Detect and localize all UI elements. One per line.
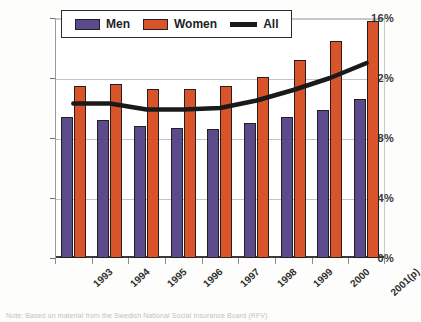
bar-men [317, 110, 329, 259]
men-swatch-icon [75, 19, 100, 30]
bar-men [171, 128, 183, 259]
bar-women [74, 86, 86, 259]
x-tick-label: 1993 [91, 266, 115, 289]
bar-men [61, 117, 73, 258]
bar-group [275, 18, 312, 258]
legend-item-all: All [230, 17, 278, 31]
legend-label-women: Women [174, 17, 217, 31]
bar-group [348, 18, 385, 258]
legend-label-all: All [263, 17, 278, 31]
bar-men [244, 123, 256, 258]
x-tick-label: 2000 [348, 266, 372, 289]
x-tick-label: 1995 [165, 266, 189, 289]
x-axis-labels: 199319941995199619971998199920002001(p) [55, 264, 385, 310]
bar-men [97, 120, 109, 258]
chart-legend: Men Women All [61, 10, 292, 38]
bar-women [257, 77, 269, 259]
legend-label-men: Men [106, 17, 130, 31]
bar-group [92, 18, 129, 258]
bar-men [281, 117, 293, 258]
all-line-icon [230, 22, 257, 27]
bar-women [147, 89, 159, 259]
bar-group [238, 18, 275, 258]
bar-group [202, 18, 239, 258]
legend-item-men: Men [75, 17, 130, 31]
bar-women [294, 60, 306, 258]
bar-group [312, 18, 349, 258]
figure-caption: Note: Based on material from the Swedish… [6, 312, 267, 319]
women-swatch-icon [143, 19, 168, 30]
bar-group [128, 18, 165, 258]
bar-men [207, 129, 219, 258]
bar-women [330, 41, 342, 259]
bar-women [367, 21, 379, 258]
bar-men [134, 126, 146, 258]
bar-group [165, 18, 202, 258]
x-tick-label: 1998 [275, 266, 299, 289]
x-tick-label: 1997 [238, 266, 262, 289]
bar-series-layer [55, 18, 385, 258]
bar-men [354, 99, 366, 258]
x-tick-label: 1996 [201, 266, 225, 289]
x-tick-label: 1999 [311, 266, 335, 289]
bar-group [55, 18, 92, 258]
x-tick-label: 2001(p) [388, 266, 421, 298]
bar-women [110, 84, 122, 258]
bar-women [220, 86, 232, 259]
x-tick-label: 1994 [128, 266, 152, 289]
bar-women [184, 89, 196, 259]
legend-item-women: Women [143, 17, 217, 31]
